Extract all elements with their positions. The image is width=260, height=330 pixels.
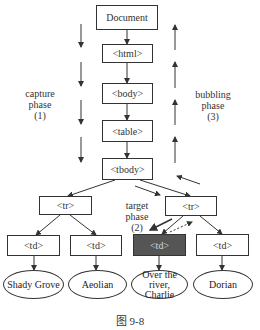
node-td-1: <td>	[7, 235, 60, 256]
leaf-dorian: Dorian	[193, 270, 253, 299]
leaf-over-the-river: Over the river, Charlie	[131, 270, 188, 299]
leaf-line-2: Charlie	[145, 290, 174, 300]
capture-phase-label: capture phase (1)	[15, 88, 65, 121]
target-line-1: target	[112, 200, 162, 211]
target-line-2: phase	[112, 211, 162, 222]
leaf-line-1: Over the river,	[132, 270, 187, 290]
figure-caption: 图 9-8	[0, 312, 260, 328]
bubbling-line-2: phase	[188, 100, 238, 111]
node-document: Document	[96, 5, 158, 30]
leaf-shady-grove: Shady Grove	[3, 270, 64, 299]
node-tr-right: <tr>	[165, 196, 217, 216]
bubbling-phase-label: bubbling phase (3)	[188, 89, 238, 122]
capture-line-1: capture	[15, 88, 65, 99]
target-phase-label: target phase (2)	[112, 200, 162, 233]
target-line-3: (2)	[112, 222, 162, 233]
node-td-target: <td>	[133, 234, 186, 256]
capture-line-2: phase	[15, 99, 65, 110]
node-tbody: <tbody>	[102, 158, 153, 180]
bubbling-line-3: (3)	[188, 111, 238, 122]
capture-line-3: (1)	[15, 110, 65, 121]
tree-edges	[34, 30, 222, 270]
node-body: <body>	[102, 83, 153, 104]
node-td-2: <td>	[70, 235, 122, 256]
leaf-aeolian: Aeolian	[68, 270, 127, 299]
node-td-4: <td>	[196, 234, 249, 256]
node-table: <table>	[102, 120, 153, 142]
node-tr-left: <tr>	[39, 196, 92, 215]
node-html: <html>	[102, 44, 153, 63]
bubbling-line-1: bubbling	[188, 89, 238, 100]
